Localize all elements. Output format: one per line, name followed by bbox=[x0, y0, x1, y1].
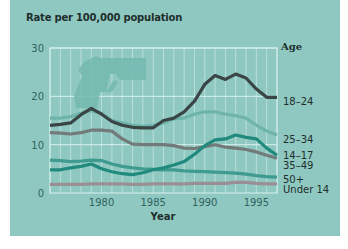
legend-title: Age bbox=[280, 41, 302, 52]
series-line bbox=[50, 182, 277, 184]
series-label: 18–24 bbox=[283, 96, 313, 107]
y-tick-label: 20 bbox=[31, 91, 44, 102]
y-tick-label: 30 bbox=[31, 43, 44, 54]
y-tick-label: 10 bbox=[31, 140, 44, 151]
series-label: Under 14 bbox=[283, 184, 329, 195]
x-axis-label: Year bbox=[150, 211, 176, 222]
line-chart: 01020301980198519901995YearAge18–2425–34… bbox=[0, 0, 348, 249]
x-tick-label: 1990 bbox=[192, 197, 217, 208]
x-tick-label: 1995 bbox=[244, 197, 269, 208]
series-label: 25–34 bbox=[283, 134, 313, 145]
x-tick-label: 1985 bbox=[140, 197, 165, 208]
axes: 01020301980198519901995YearAge18–2425–34… bbox=[31, 41, 329, 222]
y-tick-label: 0 bbox=[38, 188, 44, 199]
series-label: 35–49 bbox=[283, 160, 313, 171]
x-tick-label: 1980 bbox=[89, 197, 114, 208]
handgun-icon bbox=[74, 56, 146, 108]
